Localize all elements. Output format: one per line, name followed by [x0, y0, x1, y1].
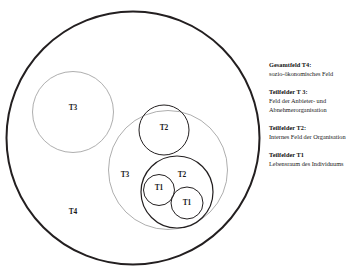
legend: Gesamtfeld T4: sozio-ökonomisches Feld T… [269, 60, 360, 177]
circle-label-t4-outer: T4 [69, 207, 78, 216]
legend-title-t2: Teilfelder T2: [269, 123, 360, 132]
circle-t4-outer [7, 12, 260, 265]
circle-t2-lower [141, 156, 213, 228]
legend-desc-t3: Feld der Anbieter- und Abnehmerorganisat… [269, 96, 360, 114]
legend-title-t4: Gesamtfeld T4: [269, 60, 360, 69]
circle-label-t3-right: T3 [121, 170, 130, 179]
legend-entry-t1: Teilfelder T1 Lebensraum des Individuums [269, 150, 360, 168]
legend-desc-t4: sozio-ökonomisches Feld [269, 69, 360, 78]
circle-t3-left [33, 72, 114, 153]
circle-labels-group: T4T3T3T2T2T1T1 [69, 103, 192, 216]
circle-label-t1-left: T1 [155, 183, 164, 192]
circle-label-t3-left: T3 [69, 103, 78, 112]
legend-title-t1: Teilfelder T1 [269, 150, 360, 159]
legend-entry-t2: Teilfelder T2: Internes Feld der Organis… [269, 123, 360, 141]
legend-entry-t3: Teilfelder T 3: Feld der Anbieter- und A… [269, 87, 360, 115]
figure-container: T4T3T3T2T2T1T1 Gesamtfeld T4: sozio-ökon… [0, 0, 360, 275]
circle-label-t1-right: T1 [183, 198, 192, 207]
legend-desc-t1: Lebensraum des Individuums [269, 159, 360, 168]
circle-label-t2-upper: T2 [160, 123, 169, 132]
legend-title-t3: Teilfelder T 3: [269, 87, 360, 96]
circle-label-t2-lower: T2 [178, 170, 187, 179]
legend-desc-t2: Internes Feld der Organisation [269, 132, 360, 141]
nested-circles-diagram: T4T3T3T2T2T1T1 [0, 0, 268, 275]
circles-group [7, 12, 260, 265]
legend-entry-t4: Gesamtfeld T4: sozio-ökonomisches Feld [269, 60, 360, 78]
